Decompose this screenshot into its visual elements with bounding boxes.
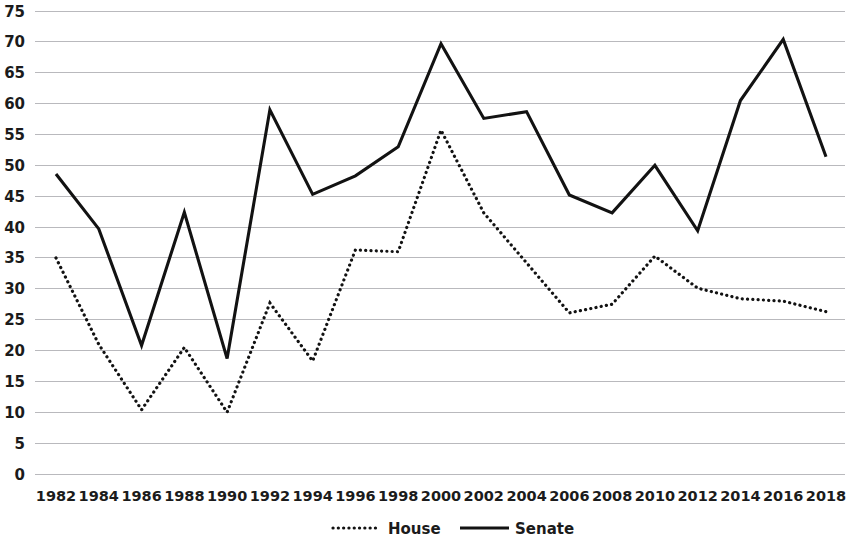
x-axis-tick-label: 1996: [335, 488, 375, 504]
legend-label-senate: Senate: [515, 520, 574, 538]
x-axis-tick-label: 1998: [378, 488, 418, 504]
x-axis-tick-label: 2000: [421, 488, 461, 504]
x-axis-tick-label: 2002: [464, 488, 504, 504]
legend-label-house: House: [388, 520, 441, 538]
x-axis-tick-label: 2010: [635, 488, 675, 504]
x-axis-labels-group: 1982198419861988199019921994199619982000…: [36, 488, 846, 504]
y-axis-tick-label: 20: [4, 342, 25, 360]
chart-container: 051015202530354045505560657075 198219841…: [0, 0, 853, 540]
x-axis-tick-label: 1994: [292, 488, 332, 504]
y-axis-tick-label: 50: [4, 157, 25, 175]
x-axis-tick-label: 2004: [506, 488, 546, 504]
line-chart: 051015202530354045505560657075 198219841…: [0, 0, 853, 540]
series-line-senate: [56, 39, 826, 358]
chart-legend: HouseSenate: [333, 520, 574, 538]
x-axis-tick-label: 1986: [121, 488, 161, 504]
x-axis-tick-label: 2008: [592, 488, 632, 504]
y-axis-tick-label: 55: [4, 126, 25, 144]
y-axis-tick-label: 25: [4, 311, 25, 329]
x-axis-tick-label: 1984: [79, 488, 119, 504]
x-axis-tick-label: 2006: [549, 488, 589, 504]
y-axis-tick-label: 40: [4, 219, 25, 237]
series-group: [56, 39, 826, 412]
y-axis-tick-label: 15: [4, 373, 25, 391]
y-axis-tick-label: 75: [4, 3, 25, 21]
series-line-house: [56, 130, 826, 412]
x-axis-tick-label: 2012: [677, 488, 717, 504]
gridlines-group: [35, 11, 845, 474]
x-axis-tick-label: 1988: [164, 488, 204, 504]
y-axis-tick-label: 65: [4, 64, 25, 82]
y-axis-labels-group: 051015202530354045505560657075: [4, 3, 25, 484]
y-axis-tick-label: 10: [4, 404, 25, 422]
y-axis-tick-label: 30: [4, 280, 25, 298]
x-axis-tick-label: 2014: [720, 488, 760, 504]
y-axis-tick-label: 5: [15, 435, 25, 453]
y-axis-tick-label: 70: [4, 33, 25, 51]
x-axis-tick-label: 1990: [207, 488, 247, 504]
y-axis-tick-label: 0: [15, 466, 25, 484]
y-axis-tick-label: 45: [4, 188, 25, 206]
x-axis-tick-label: 2018: [806, 488, 846, 504]
y-axis-tick-label: 60: [4, 95, 25, 113]
x-axis-tick-label: 1992: [250, 488, 290, 504]
y-axis-tick-label: 35: [4, 249, 25, 267]
x-axis-tick-label: 2016: [763, 488, 803, 504]
x-axis-tick-label: 1982: [36, 488, 76, 504]
